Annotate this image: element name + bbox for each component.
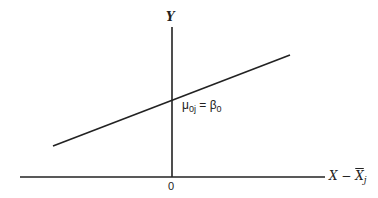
mu-symbol: μ [182,98,189,112]
x-bar: X [355,169,364,183]
intercept-annotation: μ0j = β0 [182,99,222,114]
x-var: X [329,169,338,183]
origin-label: 0 [168,181,174,192]
beta-subscript: 0 [217,104,222,114]
x-axis-label: X − Xj [329,170,367,185]
minus-sign: − [338,169,356,183]
y-axis-label: Y [166,11,175,23]
mu-subscript: 0j [189,104,196,114]
beta-symbol: β [210,98,217,112]
x-bar-subscript: j [364,175,367,185]
equals-sign: = [196,98,210,112]
